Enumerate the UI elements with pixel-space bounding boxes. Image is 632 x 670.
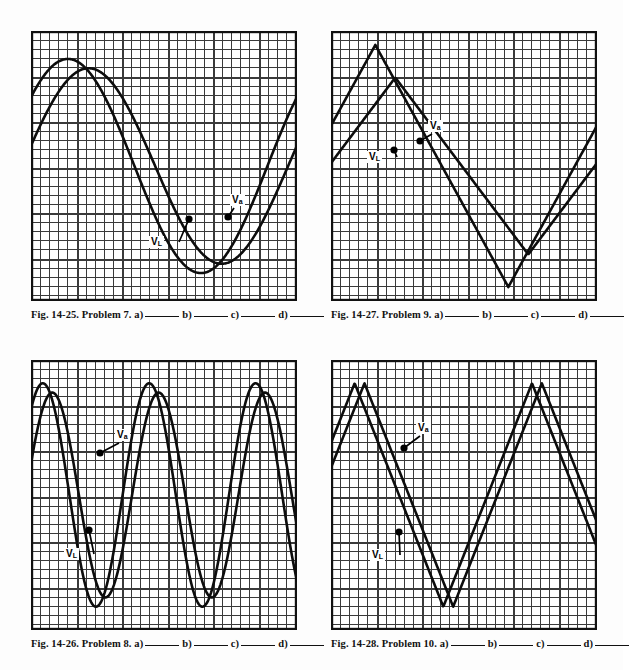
figure-caption-3: Fig. 14-26. Problem 8. a)b)c)d) bbox=[31, 637, 297, 650]
figure-caption-1: Fig. 14-25. Problem 7. a)b)c)d) bbox=[31, 308, 297, 321]
callout-arrow-icon bbox=[400, 444, 407, 451]
waveform-label-symbol: V bbox=[117, 429, 124, 440]
waveform-plot bbox=[331, 360, 597, 630]
caption-problem: Problem 10. bbox=[382, 638, 437, 649]
waveform-label-vl: VL bbox=[367, 151, 382, 163]
caption-part-d: d) bbox=[584, 638, 594, 649]
waveform-label-vl: VL bbox=[370, 549, 385, 561]
caption-problem: Problem 8. bbox=[82, 638, 132, 649]
answer-blank-c[interactable] bbox=[241, 316, 275, 317]
answer-blank-a[interactable] bbox=[445, 316, 479, 317]
answer-blank-d[interactable] bbox=[290, 316, 324, 317]
waveform-label-symbol: V bbox=[232, 194, 239, 205]
waveform-label-vl: VL bbox=[64, 548, 79, 560]
answer-blank-a[interactable] bbox=[145, 316, 179, 317]
waveform-label-symbol: V bbox=[151, 236, 158, 247]
waveform-label-symbol: V bbox=[369, 151, 376, 162]
answer-blank-c[interactable] bbox=[547, 645, 581, 646]
graph-area-3: VLVa bbox=[31, 360, 297, 630]
waveform-label-subscript: L bbox=[158, 240, 162, 247]
caption-part-b: b) bbox=[182, 638, 192, 649]
graph-area-4: VLVa bbox=[331, 360, 597, 630]
graph-area-2: VLVa bbox=[331, 31, 597, 301]
waveform-label-va: Va bbox=[115, 429, 130, 441]
caption-part-c: c) bbox=[231, 309, 239, 320]
figure-panel-3: VLVa Fig. 14-26. Problem 8. a)b)c)d) bbox=[31, 360, 297, 650]
waveform-label-symbol: V bbox=[430, 120, 437, 131]
waveform-label-subscript: a bbox=[124, 433, 128, 440]
waveform-label-symbol: V bbox=[66, 548, 73, 559]
caption-fig-number: Fig. 14-28. bbox=[331, 638, 379, 649]
answer-blank-d[interactable] bbox=[595, 645, 629, 646]
waveform-label-subscript: a bbox=[425, 426, 429, 433]
waveform-label-subscript: L bbox=[376, 155, 380, 162]
figure-panel-2: VLVa Fig. 14-27. Problem 9. a)b)c)d) bbox=[331, 31, 597, 321]
answer-blank-b[interactable] bbox=[494, 316, 528, 317]
caption-part-a: a) bbox=[134, 638, 143, 649]
answer-blank-b[interactable] bbox=[499, 645, 533, 646]
answer-blank-b[interactable] bbox=[194, 645, 228, 646]
waveform-label-symbol: V bbox=[372, 549, 379, 560]
figure-caption-2: Fig. 14-27. Problem 9. a)b)c)d) bbox=[331, 308, 597, 321]
caption-problem: Problem 7. bbox=[82, 309, 132, 320]
figure-caption-4: Fig. 14-28. Problem 10. a)b)c)d) bbox=[331, 637, 597, 650]
caption-part-c: c) bbox=[536, 638, 544, 649]
figure-panel-1: VLVa Fig. 14-25. Problem 7. a)b)c)d) bbox=[31, 31, 297, 321]
caption-problem: Problem 9. bbox=[382, 309, 432, 320]
callout-arrow-icon bbox=[85, 526, 92, 533]
waveform-plot bbox=[31, 31, 297, 301]
caption-part-b: b) bbox=[482, 309, 492, 320]
waveform-label-subscript: a bbox=[437, 124, 441, 131]
answer-blank-d[interactable] bbox=[590, 316, 624, 317]
answer-blank-a[interactable] bbox=[145, 645, 179, 646]
callout-arrow-icon bbox=[395, 528, 402, 535]
waveform-label-subscript: L bbox=[379, 553, 383, 560]
caption-part-d: d) bbox=[278, 638, 288, 649]
graph-area-1: VLVa bbox=[31, 31, 297, 301]
waveform-label-vl: VL bbox=[149, 236, 164, 248]
answer-blank-c[interactable] bbox=[241, 645, 275, 646]
waveform-label-symbol: V bbox=[418, 422, 425, 433]
caption-fig-number: Fig. 14-25. bbox=[31, 309, 79, 320]
waveform-label-subscript: a bbox=[239, 198, 243, 205]
caption-fig-number: Fig. 14-27. bbox=[331, 309, 379, 320]
caption-part-b: b) bbox=[182, 309, 192, 320]
caption-part-d: d) bbox=[578, 309, 588, 320]
caption-part-d: d) bbox=[278, 309, 288, 320]
answer-blank-a[interactable] bbox=[451, 645, 485, 646]
waveform-label-va: Va bbox=[230, 194, 245, 206]
waveform-label-va: Va bbox=[428, 120, 443, 132]
caption-part-a: a) bbox=[134, 309, 143, 320]
caption-part-b: b) bbox=[488, 638, 498, 649]
callout-arrow-icon bbox=[96, 449, 103, 456]
callout-arrow-icon bbox=[224, 213, 231, 220]
answer-blank-b[interactable] bbox=[194, 316, 228, 317]
waveform-plot bbox=[31, 360, 297, 630]
waveform-plot bbox=[331, 31, 597, 301]
caption-part-c: c) bbox=[231, 638, 239, 649]
caption-fig-number: Fig. 14-26. bbox=[31, 638, 79, 649]
answer-blank-c[interactable] bbox=[541, 316, 575, 317]
callout-arrow-icon bbox=[185, 215, 192, 222]
answer-blank-d[interactable] bbox=[290, 645, 324, 646]
callout-arrow-icon bbox=[416, 137, 423, 144]
caption-part-a: a) bbox=[434, 309, 443, 320]
figure-panel-4: VLVa Fig. 14-28. Problem 10. a)b)c)d) bbox=[331, 360, 597, 650]
waveform-label-subscript: L bbox=[73, 552, 77, 559]
waveform-label-va: Va bbox=[416, 422, 431, 434]
caption-part-a: a) bbox=[440, 638, 449, 649]
callout-arrow-icon bbox=[390, 146, 397, 153]
caption-part-c: c) bbox=[531, 309, 539, 320]
